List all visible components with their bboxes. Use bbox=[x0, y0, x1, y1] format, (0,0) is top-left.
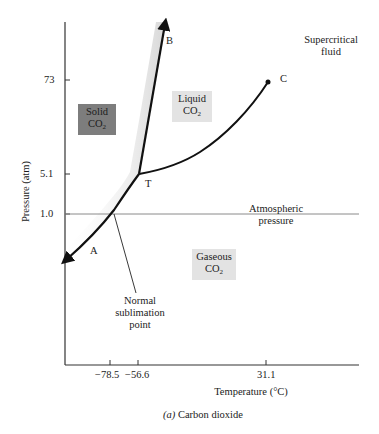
gaseous-label-line2: CO2 bbox=[195, 263, 233, 278]
y-axis-label: Pressure (atm) bbox=[20, 152, 31, 232]
x-tick-label-56.6: −56.6 bbox=[125, 369, 149, 381]
solid-boundary-shading bbox=[58, 22, 165, 262]
region-label-solid: Solid CO2 bbox=[78, 104, 116, 135]
caption-text: Carbon dioxide bbox=[175, 409, 243, 420]
supercritical-label-line2: fluid bbox=[296, 46, 366, 58]
atmospheric-pressure-label: Atmospheric pressure bbox=[236, 203, 316, 227]
point-label-T: T bbox=[145, 178, 151, 190]
supercritical-label-line1: Supercritical bbox=[296, 34, 366, 46]
phase-diagram-canvas bbox=[0, 0, 379, 434]
normal-sublimation-point-label: Normal sublimation point bbox=[108, 295, 172, 331]
sublimation-label-line2: sublimation bbox=[108, 307, 172, 319]
y-tick-label-1.0: 1.0 bbox=[40, 208, 53, 220]
liquid-label-line1: Liquid bbox=[175, 93, 209, 105]
caption-prefix: (a) bbox=[163, 409, 175, 420]
atmospheric-label-line2: pressure bbox=[236, 215, 316, 227]
region-label-gaseous: Gaseous CO2 bbox=[192, 249, 236, 280]
solid-label-line2: CO2 bbox=[81, 118, 113, 133]
figure-caption: (a) Carbon dioxide bbox=[148, 409, 258, 421]
region-label-liquid: Liquid CO2 bbox=[172, 91, 212, 122]
point-label-B: B bbox=[166, 35, 173, 47]
y-tick-label-5.1: 5.1 bbox=[40, 168, 53, 180]
point-label-A: A bbox=[90, 245, 98, 257]
region-label-supercritical: Supercritical fluid bbox=[296, 34, 366, 58]
critical-point-marker bbox=[266, 80, 271, 85]
gaseous-label-line1: Gaseous bbox=[195, 251, 233, 263]
sublimation-point-leader bbox=[114, 214, 136, 293]
x-tick-label-78.5: −78.5 bbox=[95, 369, 119, 381]
atmospheric-label-line1: Atmospheric bbox=[236, 203, 316, 215]
solid-label-line1: Solid bbox=[81, 106, 113, 118]
point-label-C: C bbox=[280, 73, 287, 85]
x-axis-label: Temperature (°C) bbox=[196, 386, 306, 398]
sublimation-label-line3: point bbox=[108, 319, 172, 331]
y-tick-label-73: 73 bbox=[44, 74, 55, 86]
x-tick-label-31.1: 31.1 bbox=[257, 369, 275, 381]
sublimation-label-line1: Normal bbox=[108, 295, 172, 307]
liquid-label-line2: CO2 bbox=[175, 105, 209, 120]
